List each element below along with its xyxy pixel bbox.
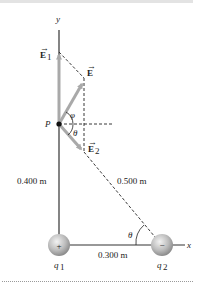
label-phi: φ — [70, 110, 75, 120]
label-e-symbol: E — [87, 68, 93, 78]
label-theta-p: θ — [73, 128, 78, 138]
point-p — [56, 121, 61, 126]
label-e2: → E 2 — [88, 137, 100, 156]
label-distance-horizontal: 0.300 m — [98, 250, 128, 260]
label-theta-q2: θ — [128, 230, 133, 240]
label-q1-subscript: 1 — [60, 262, 65, 272]
label-e1-subscript: 1 — [47, 52, 52, 62]
label-q2: q 2 — [157, 260, 168, 272]
label-distance-hypotenuse: 0.500 m — [117, 176, 147, 186]
label-distance-vertical: 0.400 m — [17, 176, 47, 186]
label-q1-name: q — [54, 260, 59, 270]
label-e2-symbol: E — [88, 144, 94, 154]
angle-arc-theta-q2 — [136, 225, 144, 245]
label-q2-subscript: 2 — [163, 262, 168, 272]
y-axis-label: y — [55, 14, 60, 24]
label-e2-subscript: 2 — [95, 146, 100, 156]
charge-q2-sign: − — [159, 240, 164, 250]
charge-q2: − — [151, 234, 173, 256]
dashed-e1-to-e — [59, 52, 84, 78]
bottom-dotted-divider — [2, 281, 193, 282]
charge-q1: + — [48, 234, 70, 256]
label-e: → E — [87, 61, 96, 78]
x-axis-label: x — [186, 240, 191, 250]
vector-e2-arrow — [59, 124, 81, 149]
label-q1: q 1 — [54, 260, 65, 272]
electric-field-diagram: + − y x → E 1 → E → E 2 P φ θ θ 0.400 m … — [0, 0, 207, 286]
label-p: P — [44, 119, 51, 129]
label-e1: → E 1 — [40, 43, 52, 62]
label-q2-name: q — [157, 260, 162, 270]
charge-q1-sign: + — [56, 241, 61, 251]
dashed-hypotenuse — [84, 152, 160, 243]
label-e1-symbol: E — [40, 50, 46, 60]
